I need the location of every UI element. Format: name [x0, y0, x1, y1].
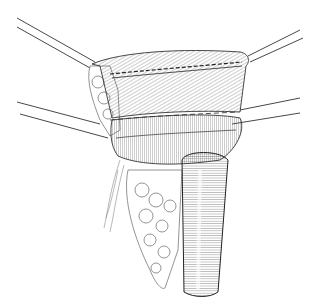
tubular-structure — [182, 153, 228, 297]
upper-tissue-flap — [92, 51, 248, 121]
tissue-strands — [104, 160, 124, 232]
illustration-canvas — [0, 0, 321, 308]
surgical-illustration — [0, 0, 321, 308]
